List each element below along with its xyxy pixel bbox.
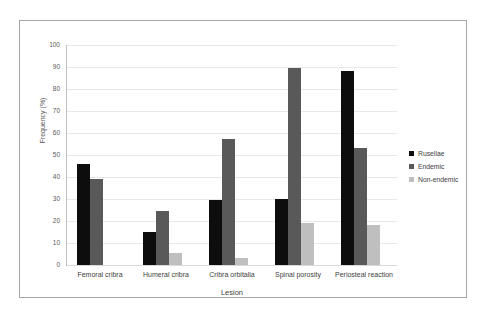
x-axis-tick-label: Humeral cribra [133,271,199,278]
legend-swatch-icon [409,164,414,169]
bar[interactable] [222,139,235,266]
legend-label: Non-endemic [418,176,458,183]
bar-group [265,45,331,265]
bar[interactable] [341,71,354,265]
legend-swatch-icon [409,151,414,156]
x-axis-tick-label: Femoral cribra [67,271,133,278]
y-axis-title: Frequency (%) [39,81,46,161]
bar[interactable] [288,68,301,265]
y-axis-tick-label: 30 [34,196,60,203]
x-axis-tick-label: Spinal porosity [265,271,331,278]
y-axis-tick-label: 60 [34,130,60,137]
bar[interactable] [275,199,288,265]
bar[interactable] [77,164,90,265]
gridline [67,265,397,266]
y-axis-tick-label: 80 [34,86,60,93]
y-axis-tick-label: 50 [34,152,60,159]
bar-group [199,45,265,265]
bar[interactable] [156,211,169,265]
plot-area: Femoral cribraHumeral cribraCribra orbit… [67,45,397,265]
bar-group [67,45,133,265]
legend-item[interactable]: Non-endemic [409,173,487,185]
x-axis-title: Lesion [67,288,397,297]
bar-group [331,45,397,265]
y-axis-tick-label: 0 [34,262,60,269]
bar[interactable] [301,223,314,265]
chart-legend: RusellaeEndemicNon-endemic [409,147,487,186]
bar[interactable] [235,258,248,265]
x-axis-tick-label: Periosteal reaction [331,271,397,278]
bar[interactable] [209,200,222,265]
y-axis-tick-label: 40 [34,174,60,181]
y-axis-tick-label: 90 [34,64,60,71]
chart-figure-frame: Frequency (%) 1009080706050403020100 Fem… [19,20,467,298]
x-axis-tick-label: Cribra orbitalia [199,271,265,278]
bar-group [133,45,199,265]
legend-label: Endemic [418,163,444,170]
bar[interactable] [354,148,367,265]
legend-item[interactable]: Endemic [409,160,487,172]
bar[interactable] [367,225,380,265]
y-axis-tick-label: 20 [34,218,60,225]
bar[interactable] [169,253,182,265]
y-axis-tick-label: 70 [34,108,60,115]
y-axis-tick-label: 100 [34,42,60,49]
legend-label: Rusellae [418,150,444,157]
bar[interactable] [143,232,156,265]
bar[interactable] [90,179,103,265]
legend-item[interactable]: Rusellae [409,147,487,159]
legend-swatch-icon [409,177,414,182]
y-axis-tick-label: 10 [34,240,60,247]
